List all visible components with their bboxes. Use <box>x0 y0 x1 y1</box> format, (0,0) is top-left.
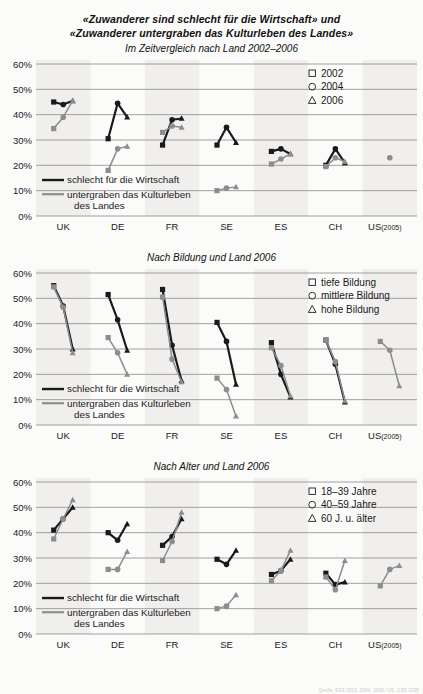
data-point <box>269 345 274 350</box>
data-point <box>214 376 219 381</box>
key-label-kulturleben: untergraben das Kulturleben <box>67 607 191 618</box>
data-point <box>224 387 230 393</box>
key-label-kulturleben-line2: des Landes <box>74 618 125 629</box>
legend-marker-square <box>309 70 315 76</box>
series-line <box>108 103 127 138</box>
data-point <box>169 117 175 123</box>
y-axis-tick-label: 0% <box>18 211 32 222</box>
data-point <box>269 572 274 577</box>
chart-title-1: Im Zeitvergleich nach Land 2002–2006 <box>0 40 423 56</box>
y-axis-tick-label: 50% <box>13 293 33 304</box>
data-point <box>224 125 230 131</box>
legend-marker-square <box>309 488 315 494</box>
data-point <box>169 356 175 362</box>
data-point <box>124 143 130 149</box>
data-point <box>387 347 393 353</box>
y-axis-tick-label: 50% <box>13 84 33 95</box>
x-axis-tick-note: (2005) <box>381 433 401 441</box>
chart-plot-3: 0%10%20%30%40%50%60%UKDEFRSEESCHUS(2005)… <box>0 474 423 667</box>
data-point <box>214 188 219 193</box>
data-point <box>224 562 230 568</box>
data-point <box>124 549 130 555</box>
y-axis-tick-label: 10% <box>13 185 33 196</box>
data-point <box>214 606 219 611</box>
y-axis-tick-label: 0% <box>18 629 32 640</box>
key-label-wirtschaft: schlecht für die Wirtschaft <box>67 383 179 394</box>
data-point <box>160 142 165 147</box>
data-point <box>278 146 284 152</box>
data-point <box>378 339 383 344</box>
x-axis-tick-label: UK <box>57 639 71 650</box>
data-point <box>115 567 121 573</box>
key-label-kulturleben: untergraben das Kulturleben <box>67 189 191 200</box>
x-axis-tick-label: US(2005) <box>368 430 401 441</box>
key-label-kulturleben-line2: des Landes <box>74 409 125 420</box>
data-point <box>233 547 239 553</box>
legend-label: hohe Bildung <box>321 304 379 315</box>
x-axis-tick-label: ES <box>275 221 288 232</box>
y-axis-tick-label: 50% <box>13 502 33 513</box>
data-point <box>60 102 66 108</box>
x-axis-tick-note: (2005) <box>381 224 401 232</box>
data-point <box>224 339 230 345</box>
page-title-line2: «Zuwanderer untergraben das Kulturleben … <box>0 26 423 40</box>
data-point <box>278 156 284 162</box>
data-point <box>160 543 165 548</box>
x-axis-tick-label: CH <box>328 221 342 232</box>
data-point <box>333 146 339 152</box>
y-axis-tick-label: 30% <box>13 135 33 146</box>
data-point <box>106 136 111 141</box>
x-axis-tick-label: DE <box>111 430 124 441</box>
data-point <box>224 185 230 191</box>
data-point <box>51 284 56 289</box>
data-point <box>60 114 66 120</box>
y-axis-tick-label: 20% <box>13 369 33 380</box>
legend: 18–39 Jahre40–59 Jahre60 J. u. älter <box>308 486 377 524</box>
chart-svg: 0%10%20%30%40%50%60%UKDEFRSEESCHUS(2005)… <box>0 265 423 458</box>
data-point <box>278 568 284 574</box>
data-point <box>233 592 239 598</box>
data-point <box>333 359 339 365</box>
x-axis-labels: UKDEFRSEESCHUS(2005) <box>57 430 402 441</box>
data-point <box>60 304 66 310</box>
data-point <box>333 155 339 161</box>
data-point <box>278 363 284 369</box>
page-root: «Zuwanderer sind schlecht für die Wirtsc… <box>0 0 423 694</box>
y-axis-tick-label: 40% <box>13 318 33 329</box>
data-point <box>269 149 274 154</box>
x-axis-tick-label: FR <box>166 639 179 650</box>
x-axis-tick-label: DE <box>111 639 124 650</box>
legend-marker-triangle <box>308 514 316 521</box>
data-point <box>51 126 56 131</box>
data-point <box>124 347 130 353</box>
data-point <box>323 338 328 343</box>
data-point <box>115 350 121 356</box>
data-point <box>106 168 111 173</box>
legend-label: 2002 <box>321 68 344 79</box>
data-point <box>233 413 239 419</box>
data-point <box>169 123 175 129</box>
data-point <box>269 578 274 583</box>
page-title-line1: «Zuwanderer sind schlecht für die Wirtsc… <box>0 12 423 26</box>
y-axis-tick-label: 40% <box>13 527 33 538</box>
y-axis-tick-label: 0% <box>18 420 32 431</box>
data-point <box>106 567 111 572</box>
data-point <box>60 516 66 522</box>
legend: 200220042006 <box>308 68 343 106</box>
y-axis-tick-label: 20% <box>13 160 33 171</box>
data-point <box>224 603 230 609</box>
series-line <box>326 340 345 402</box>
chart-panel-3: Nach Alter und Land 2006 0%10%20%30%40%5… <box>0 458 423 667</box>
chart-svg: 0%10%20%30%40%50%60%UKDEFRSEESCHUS(2005)… <box>0 474 423 667</box>
x-axis-tick-label: FR <box>166 430 179 441</box>
x-axis-tick-label: US(2005) <box>368 221 401 232</box>
y-axis-tick-label: 60% <box>13 477 33 488</box>
legend-label: mittlere Bildung <box>321 290 390 301</box>
x-axis-tick-label: SE <box>220 639 233 650</box>
y-axis-tick-label: 40% <box>13 109 33 120</box>
y-axis-tick-label: 60% <box>13 59 33 70</box>
legend-marker-square <box>309 279 315 285</box>
x-axis-tick-label: ES <box>275 430 288 441</box>
legend-label: 40–59 Jahre <box>321 499 377 510</box>
x-axis-labels: UKDEFRSEESCHUS(2005) <box>57 639 402 650</box>
